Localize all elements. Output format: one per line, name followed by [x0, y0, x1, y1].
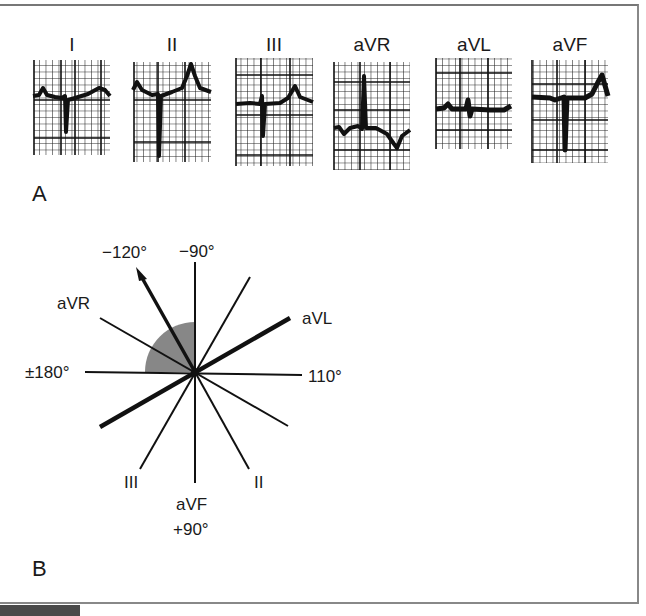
label-minus-90: −90° [179, 242, 215, 261]
ecg-strip-ii [133, 62, 211, 162]
label-lead-ii: II [254, 473, 263, 492]
ecg-strip-avf [532, 60, 608, 163]
arrowhead-icon [136, 267, 147, 281]
ecg-strip-avr [334, 62, 410, 170]
label-180: ±180° [25, 363, 70, 382]
label-avf: aVF [176, 495, 207, 514]
figure-graphics: −90° −120° aVR aVL ±180° 110° III II aVF… [0, 0, 646, 616]
label-110: 110° [308, 367, 342, 386]
label-lead-iii: III [124, 473, 138, 492]
label-avl: aVL [302, 309, 332, 328]
axis-center [191, 368, 199, 376]
label-plus-90: +90° [173, 520, 209, 539]
ecg-strip-iii [236, 58, 313, 166]
ecg-strip-i [33, 60, 110, 155]
axis-line-lead-ii [195, 372, 249, 469]
label-avr: aVR [57, 294, 90, 313]
ecg-strip-avl [436, 58, 512, 149]
hexaxial-diagram: −90° −120° aVR aVL ±180° 110° III II aVF… [25, 242, 342, 539]
label-minus-120: −120° [102, 243, 147, 262]
